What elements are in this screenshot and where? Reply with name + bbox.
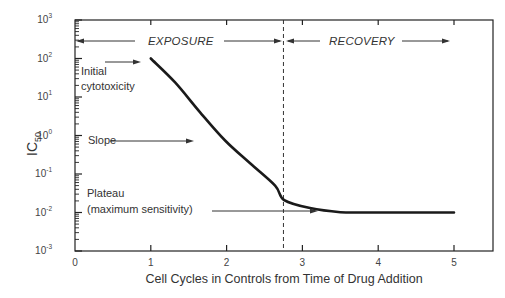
y-tick-label: 102 [37, 51, 52, 64]
x-ticks [151, 20, 454, 251]
annotation-slope: Slope [88, 134, 194, 146]
annotation-text-line: Plateau [87, 187, 124, 199]
svg-text:IC50: IC50 [24, 132, 43, 156]
ic50-curve [151, 59, 454, 213]
x-tick-label: 3 [300, 257, 306, 268]
y-tick-label: 10-1 [35, 166, 52, 179]
recovery-label: RECOVERY [329, 35, 396, 47]
x-tick-label: 1 [148, 257, 154, 268]
y-tick-label: 10-3 [35, 243, 52, 256]
y-tick-label: 10-2 [35, 205, 52, 218]
exposure-phase-arrow: EXPOSURE [76, 35, 282, 47]
x-axis-title: Cell Cycles in Controls from Time of Dru… [145, 272, 422, 286]
y-tick-label: 101 [37, 89, 52, 102]
y-axis-title: IC50 [24, 132, 43, 156]
y-tick-label: 103 [37, 12, 52, 25]
x-tick-label: 5 [451, 257, 457, 268]
annotation-text-line: (maximum sensitivity) [87, 203, 193, 215]
annotation-text-line: cytotoxicity [81, 80, 135, 92]
y-axis-title-main: IC [24, 142, 40, 156]
annotation-text-line: Slope [88, 134, 116, 146]
y-axis-title-subscript: 50 [33, 132, 43, 142]
annotation-initial-cytotoxicity: Initial cytotoxicity [81, 60, 141, 93]
ic50-chart: 10310210110010-110-210-3 012345 EXPOSURE… [0, 0, 505, 298]
arrow-left-icon [76, 39, 84, 44]
annotation-text-line: Initial [81, 65, 107, 77]
arrow-left-icon [286, 39, 294, 44]
arrow-right-icon [133, 60, 141, 65]
x-tick-label: 2 [224, 257, 230, 268]
arrow-right-icon [274, 39, 282, 44]
x-tick-label: 0 [72, 257, 78, 268]
x-tick-label: 4 [375, 257, 381, 268]
recovery-phase-arrow: RECOVERY [286, 35, 450, 47]
plot-frame [75, 20, 493, 251]
x-tick-labels: 012345 [72, 257, 457, 268]
arrow-right-icon [442, 39, 450, 44]
arrow-right-icon [186, 139, 194, 144]
exposure-label: EXPOSURE [148, 35, 214, 47]
